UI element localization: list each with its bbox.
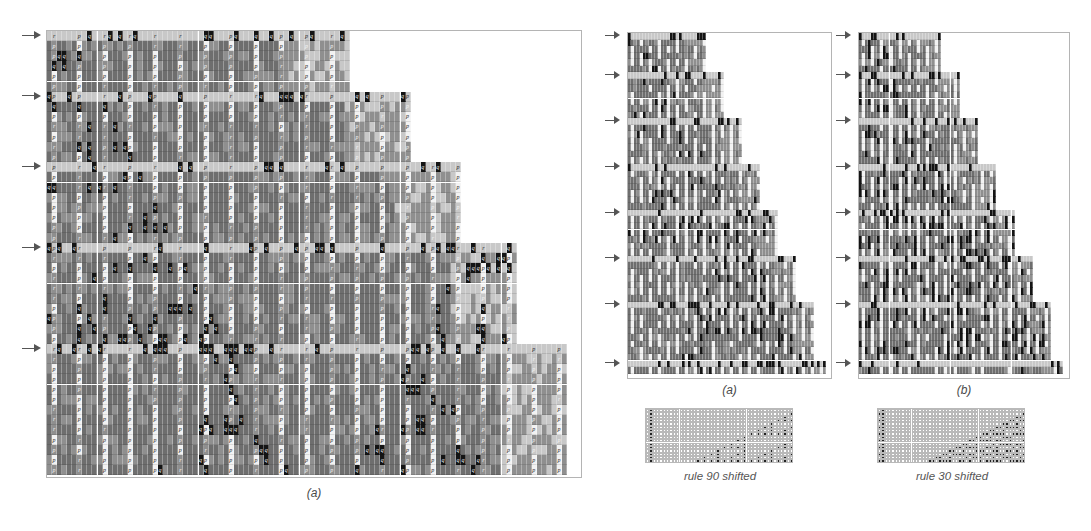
mobile-automaton-emulation-panel-a: rpqrqqrqrrqqpqqqpqpqrqpppprrpppppppqqqpp… [46,30,582,478]
cell-state-glyph: p [52,73,56,79]
cell-state-glyph: p [456,325,460,331]
cell-state-glyph: p [128,43,132,49]
cell-state-glyph: p [204,164,208,170]
cell-state-glyph: p [153,214,157,220]
cell-state-glyph: q [229,426,233,432]
row-marker-arrow-icon [22,243,42,252]
cell-state-glyph: p [204,315,208,321]
cell-state-glyph: p [507,325,511,331]
cell-state-glyph: p [128,255,132,261]
cell-state-glyph: r [204,447,208,453]
cell-state-glyph: r [103,83,107,89]
cell-state-glyph: p [153,275,157,281]
cell-state-glyph: p [355,224,359,230]
cell-state-glyph: q [153,204,157,210]
cell-state-glyph: r [103,235,107,241]
cell-state-glyph: q [178,93,182,99]
cell-state-glyph: q [158,346,162,352]
cell-state-glyph: p [330,426,334,432]
cell-state-glyph: q [87,154,91,160]
cell-state-glyph: p [229,73,233,79]
cell-state-glyph: p [254,83,258,89]
cell-state-glyph: p [254,275,258,281]
cell-state-glyph: p [279,396,283,402]
automaton-cell: p [456,162,461,172]
cell-state-glyph: q [87,123,91,129]
cell-state-glyph: p [380,154,384,160]
cell-state-glyph: p [254,255,258,261]
cell-state-glyph: p [481,437,485,443]
cell-state-glyph: p [532,406,536,412]
cell-state-glyph: q [456,346,460,352]
cell-state-glyph: r [103,346,107,352]
cell-state-glyph: r [103,134,107,140]
cell-state-glyph: p [204,63,208,69]
rule30-panel-canvas [859,33,1069,378]
cell-state-glyph: p [532,376,536,382]
cell-state-glyph: p [279,144,283,150]
cell-state-glyph: p [229,214,233,220]
cell-state-glyph: r [279,285,283,291]
cell-state-glyph: p [153,194,157,200]
cell-state-glyph: p [279,174,283,180]
cell-state-glyph: q [269,346,273,352]
cell-state-glyph: p [355,164,359,170]
automaton-cell [975,157,978,164]
row-marker-arrow-icon [836,358,856,367]
cell-state-glyph: p [279,265,283,271]
cell-state-glyph: p [355,437,359,443]
cell-state-glyph: r [153,366,157,372]
cell-state-glyph: r [330,33,334,39]
cell-state-glyph: p [128,103,132,109]
cell-state-glyph: q [77,144,81,150]
cell-state-glyph: p [178,406,182,412]
row-marker-arrow-icon [605,116,625,125]
cell-state-glyph: p [456,174,460,180]
cell-state-glyph: p [204,93,208,99]
cell-state-glyph: q [406,366,410,372]
cell-state-glyph: r [229,336,233,342]
cell-state-glyph: p [52,265,56,271]
cell-state-glyph: p [229,315,233,321]
cell-state-glyph: r [204,123,208,129]
cell-state-glyph: p [178,315,182,321]
cell-state-glyph: p [279,305,283,311]
cell-state-glyph: p [456,164,460,170]
cell-state-glyph: q [355,93,359,99]
cell-state-glyph: q [481,325,485,331]
cell-state-glyph: p [254,406,258,412]
cell-state-glyph: p [406,457,410,463]
cell-state-glyph: p [204,426,208,432]
cell-state-glyph: r [380,426,384,432]
cell-state-glyph: p [355,376,359,382]
cell-state-glyph: r [153,235,157,241]
automaton-cell [793,256,796,263]
cell-state-glyph: p [279,386,283,392]
cell-state-glyph: q [214,325,218,331]
cell-state-glyph: q [163,224,167,230]
cell-state-glyph: q [47,315,51,321]
cell-state-glyph: p [77,224,81,230]
cell-state-glyph: p [254,113,258,119]
cell-state-glyph: p [229,53,233,59]
cell-state-glyph: p [254,396,258,402]
cell-state-glyph: p [330,43,334,49]
cell-state-glyph: p [128,204,132,210]
cell-state-glyph: q [113,184,117,190]
cell-state-glyph: r [153,83,157,89]
cell-state-glyph: p [254,457,258,463]
cell-state-glyph: r [103,285,107,291]
cell-state-glyph: p [52,245,56,251]
caption-rule30-panel: (b) [858,383,1070,397]
cell-state-glyph: p [355,174,359,180]
cell-state-glyph: q [224,416,228,422]
cell-state-glyph: p [52,396,56,402]
cell-state-glyph: p [456,295,460,301]
cell-state-glyph: p [557,467,561,473]
cell-state-glyph: q [502,336,506,342]
cell-state-glyph: q [289,93,293,99]
cell-state-glyph: p [355,366,359,372]
automaton-cell [562,354,567,364]
cell-state-glyph: p [330,255,334,261]
cell-state-glyph: p [103,224,107,230]
